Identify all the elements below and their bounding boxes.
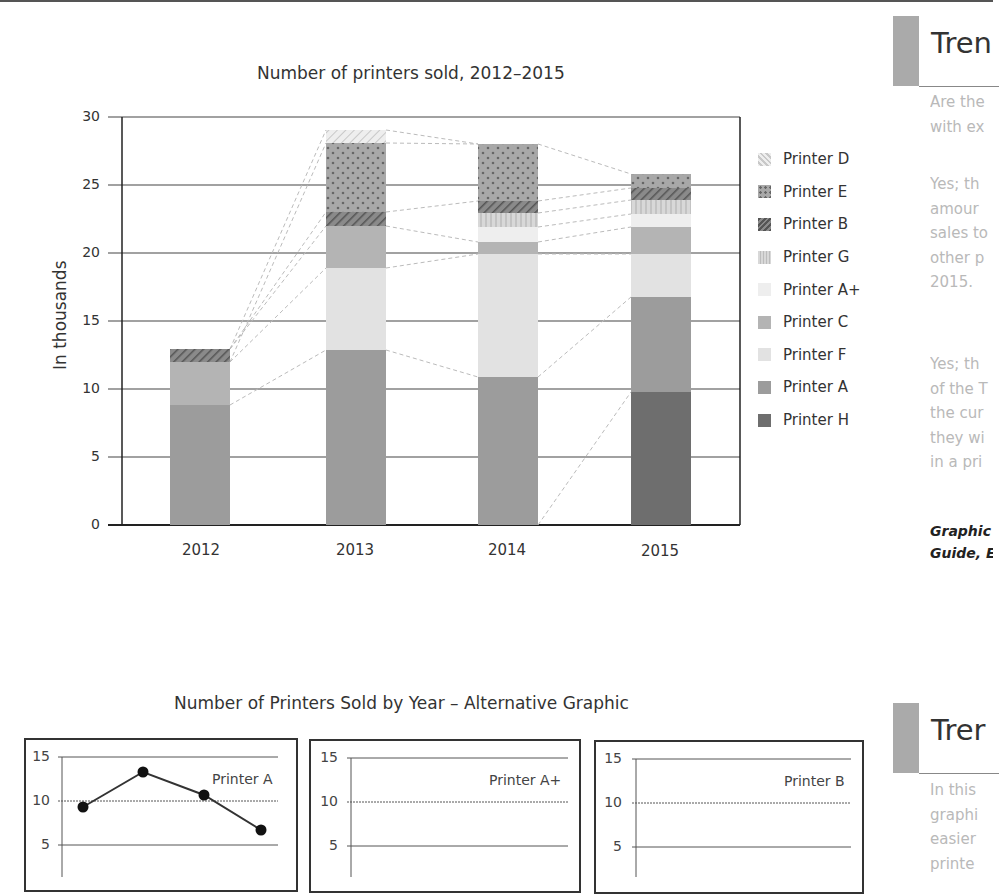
section-rule bbox=[919, 773, 999, 774]
swatch-solid-icon bbox=[758, 283, 771, 296]
panel2-tick-15: 15 bbox=[318, 749, 338, 765]
panel1-label: Printer A bbox=[212, 771, 273, 787]
panel3-tick-10: 10 bbox=[602, 794, 622, 810]
panel2-label: Printer A+ bbox=[489, 772, 561, 788]
legend-item-printer-h: Printer H bbox=[758, 404, 861, 437]
swatch-hatch-dark-icon bbox=[758, 218, 771, 231]
panel2-tick-5: 5 bbox=[318, 837, 338, 853]
chart-legend: Printer D Printer E Printer B Printer G … bbox=[758, 143, 861, 436]
swatch-solid-icon bbox=[758, 414, 771, 427]
section-rule bbox=[919, 86, 999, 87]
panel3-tick-15: 15 bbox=[602, 750, 622, 766]
legend-item-printer-b: Printer B bbox=[758, 208, 861, 241]
panel3-tick-5: 5 bbox=[602, 838, 622, 854]
panel1-tick-5: 5 bbox=[30, 836, 50, 852]
legend-item-printer-a-plus: Printer A+ bbox=[758, 273, 861, 306]
legend-item-printer-g: Printer G bbox=[758, 241, 861, 274]
section-title: Tren bbox=[931, 26, 992, 60]
legend-item-printer-c: Printer C bbox=[758, 306, 861, 339]
swatch-dots-icon bbox=[758, 185, 771, 198]
panel2-tick-10: 10 bbox=[318, 793, 338, 809]
swatch-solid-icon bbox=[758, 348, 771, 361]
panel1-tick-15: 15 bbox=[30, 748, 50, 764]
legend-item-printer-d: Printer D bbox=[758, 143, 861, 176]
legend-item-printer-e: Printer E bbox=[758, 176, 861, 209]
section-marker-bar bbox=[893, 703, 919, 773]
sidebar-caption: Graphic Guide, E. bbox=[930, 520, 993, 564]
panel3-label: Printer B bbox=[784, 773, 845, 789]
panel-printer-b bbox=[594, 740, 864, 894]
panel-printer-a-plus bbox=[309, 739, 581, 893]
swatch-solid-icon bbox=[758, 316, 771, 329]
sidebar-section-2-text: In this graphi easier printe bbox=[930, 778, 993, 876]
sidebar-answer-1: Yes; th amour sales to other p 2015. bbox=[930, 172, 993, 295]
swatch-solid-icon bbox=[758, 381, 771, 394]
legend-item-printer-f: Printer F bbox=[758, 339, 861, 372]
section-marker-bar bbox=[893, 16, 919, 86]
sidebar-question: Are the with ex bbox=[930, 90, 993, 139]
section-title: Trer bbox=[931, 713, 986, 747]
legend-item-printer-a: Printer A bbox=[758, 371, 861, 404]
sidebar-answer-2: Yes; th of the T the cur they wi in a pr… bbox=[930, 352, 993, 475]
panel1-tick-10: 10 bbox=[30, 792, 50, 808]
swatch-vertical-icon bbox=[758, 251, 771, 264]
alt-chart-title: Number of Printers Sold by Year – Altern… bbox=[174, 693, 629, 713]
panel-printer-a bbox=[24, 738, 298, 892]
swatch-hatch-light-icon bbox=[758, 153, 771, 166]
